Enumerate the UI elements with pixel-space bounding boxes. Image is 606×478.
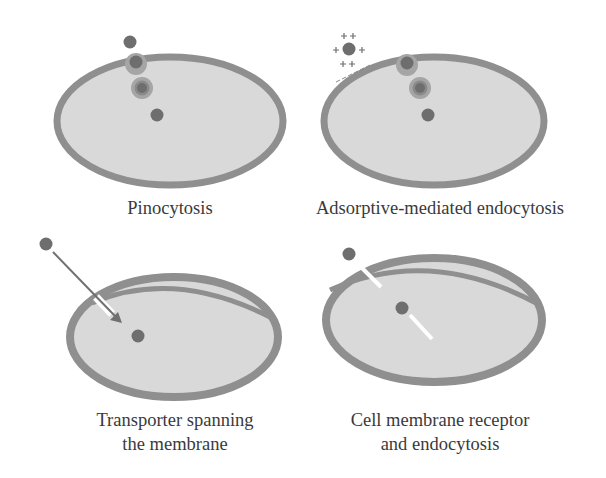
vesicle-forming-core [130,56,143,69]
label-pinocytosis: Pinocytosis [70,196,270,220]
molecule-inside [132,330,145,343]
charged-molecule [343,43,356,56]
cell-membrane [324,57,544,185]
panel-transporter [40,238,279,398]
label-line: Transporter spanning [60,408,290,432]
label-line: and endocytosis [320,432,560,456]
endocytosis-diagram [0,0,606,478]
label-receptor: Cell membrane receptor and endocytosis [320,408,560,456]
cell-membrane [326,258,542,382]
internalized-molecule [396,302,409,315]
vesicle-forming-core [401,57,414,70]
molecule-outside [40,238,53,251]
label-line: Cell membrane receptor [320,408,560,432]
cell-membrane [57,57,283,185]
label-line: Adsorptive-mediated endocytosis [316,198,564,218]
label-line: the membrane [60,432,290,456]
bound-molecule-outside [343,248,356,261]
panel-adsorptive-endocytosis [324,33,544,185]
molecule-inside [422,109,435,122]
molecule-inside [151,109,164,122]
label-adsorptive-endocytosis: Adsorptive-mediated endocytosis [290,196,590,220]
label-line: Pinocytosis [127,198,212,218]
panel-receptor [326,248,542,383]
label-transporter: Transporter spanning the membrane [60,408,290,456]
vesicle-internalized-core [137,83,147,93]
vesicle-internalized-core [415,83,425,93]
panel-pinocytosis [57,36,283,186]
molecule-outside [124,36,137,49]
cell-membrane [70,277,278,397]
